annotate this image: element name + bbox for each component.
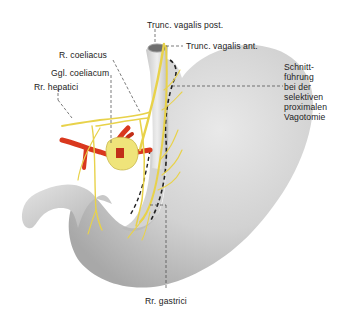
label-trunc-vagalis-ant: Trunc. vagalis ant. <box>186 41 258 51</box>
stomach-vagus-illustration <box>0 0 337 317</box>
celiac-trunk-center <box>116 148 124 158</box>
label-rr-gastrici: Rr. gastrici <box>145 296 187 306</box>
label-r-coeliacus: R. coeliacus <box>59 50 107 60</box>
label-schnittfuehrung-line-6: Vagotomie <box>284 112 337 122</box>
label-schnittfuehrung-line-5: proximalen <box>284 102 337 112</box>
stomach-body <box>69 45 313 288</box>
label-rr-hepatici: Rr. hepatici <box>34 82 78 92</box>
label-schnittfuehrung: Schnitt- führung bei der selektiven prox… <box>284 62 337 122</box>
label-schnittfuehrung-line-4: selektiven <box>284 92 337 102</box>
label-schnittfuehrung-line-1: Schnitt- <box>284 62 337 72</box>
label-schnittfuehrung-line-2: führung <box>284 72 337 82</box>
label-ggl-coeliacum: Ggl. coeliacum <box>51 68 109 78</box>
label-schnittfuehrung-line-3: bei der <box>284 82 337 92</box>
label-trunc-vagalis-post: Trunc. vagalis post. <box>147 20 223 30</box>
